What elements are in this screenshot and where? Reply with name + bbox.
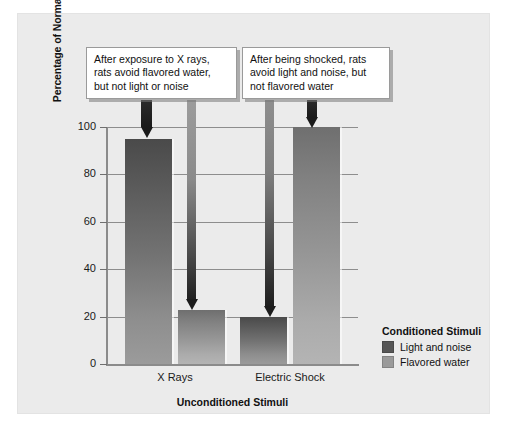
annotation-callout-right: After being shocked, rats avoid light an… <box>242 47 390 99</box>
arrow-shaft <box>141 100 152 127</box>
legend-label-light-and-noise: Light and noise <box>400 341 471 353</box>
ytick-mark-100 <box>100 127 107 128</box>
arrow-shaft <box>265 100 274 306</box>
callout-right-line-1: After being shocked, rats <box>250 53 383 66</box>
ytick-label-40: 40 <box>84 262 96 274</box>
ytick-label-0: 0 <box>90 357 96 369</box>
bar-xrays-light-and-noise[interactable] <box>125 139 172 364</box>
legend-swatch-light-and-noise <box>382 341 394 353</box>
ytick-label-20: 20 <box>84 310 96 322</box>
ytick-label-80: 80 <box>84 167 96 179</box>
ytick-mark-80 <box>100 174 107 175</box>
legend-label-flavored-water: Flavored water <box>400 356 469 368</box>
annotation-arrow-xrays-light-and-noise <box>141 100 152 138</box>
arrow-head <box>186 299 198 310</box>
ytick-mark-60 <box>100 222 107 223</box>
x-axis-line <box>106 364 359 366</box>
bar-shock-flavored-water[interactable] <box>293 127 340 364</box>
ytick-label-100: 100 <box>78 120 96 132</box>
annotation-arrow-shock-light-and-noise <box>265 100 274 317</box>
legend-swatch-flavored-water <box>382 356 394 368</box>
annotation-arrow-shock-flavored-water <box>307 100 317 128</box>
legend-title: Conditioned Stimuli <box>382 325 481 337</box>
ytick-mark-20 <box>100 317 107 318</box>
legend-item-light-and-noise[interactable]: Light and noise <box>382 341 481 353</box>
x-axis-title: Unconditioned Stimuli <box>107 396 358 408</box>
annotation-arrow-xrays-flavored-water <box>187 100 196 310</box>
arrow-head <box>141 127 153 138</box>
bar-xrays-flavored-water[interactable] <box>178 310 225 365</box>
legend: Conditioned Stimuli Light and noise Flav… <box>382 325 481 371</box>
callout-right-line-2: avoid light and noise, but <box>250 66 383 79</box>
chart-panel: 100 80 60 40 20 0 X Rays Electric Shock … <box>18 14 489 413</box>
xtick-label-x-rays: X Rays <box>125 371 225 383</box>
ytick-mark-0 <box>100 364 107 365</box>
callout-left-line-1: After exposure to X rays, <box>94 53 230 66</box>
arrow-head <box>264 306 276 317</box>
arrow-shaft <box>187 100 196 299</box>
legend-item-flavored-water[interactable]: Flavored water <box>382 356 481 368</box>
annotation-callout-left: After exposure to X rays, rats avoid fla… <box>86 47 237 99</box>
xtick-label-electric-shock: Electric Shock <box>235 371 345 383</box>
arrow-shaft <box>307 100 317 117</box>
callout-left-line-3: but not light or noise <box>94 80 230 93</box>
y-axis-line <box>106 127 108 365</box>
bar-shock-light-and-noise[interactable] <box>240 317 287 364</box>
callout-left-line-2: rats avoid flavored water, <box>94 66 230 79</box>
ytick-label-60: 60 <box>84 215 96 227</box>
y-axis-title: Percentage of Normal Fluid Intake <box>51 0 63 134</box>
figure-root: 100 80 60 40 20 0 X Rays Electric Shock … <box>0 0 507 430</box>
callout-right-line-3: not flavored water <box>250 80 383 93</box>
ytick-mark-40 <box>100 269 107 270</box>
arrow-head <box>306 117 318 128</box>
plot-area: 100 80 60 40 20 0 X Rays Electric Shock <box>107 127 358 364</box>
